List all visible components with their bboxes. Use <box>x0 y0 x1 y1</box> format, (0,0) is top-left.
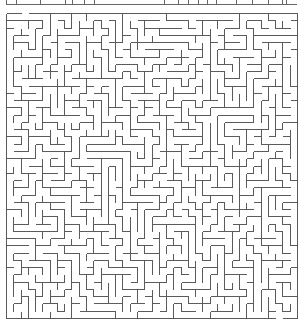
maze-grid <box>0 0 305 321</box>
maze-walls <box>7 14 298 319</box>
maze-page <box>0 0 305 321</box>
